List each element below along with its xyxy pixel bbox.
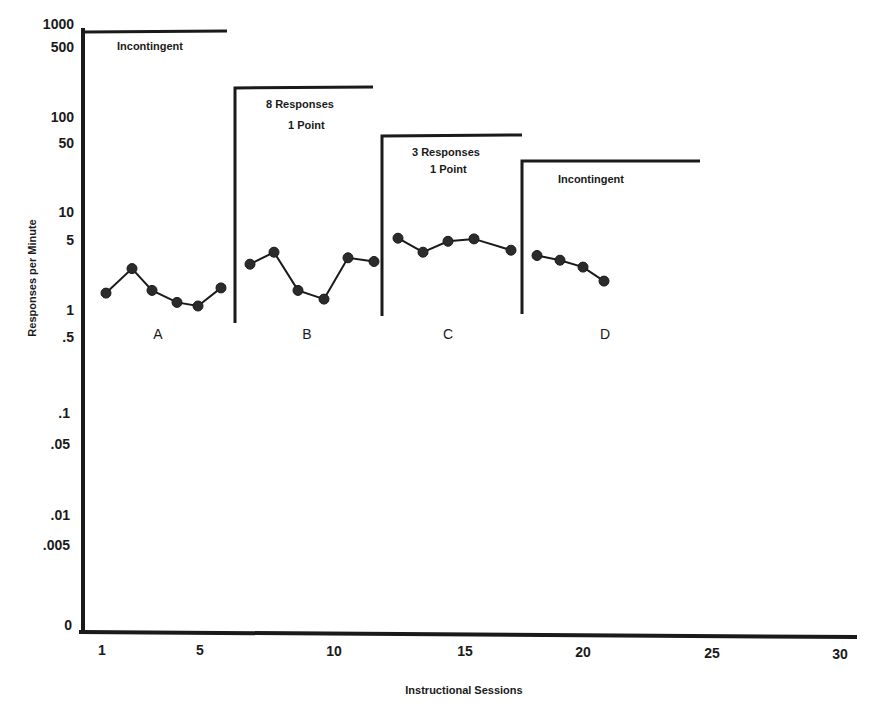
data-point [319, 294, 329, 304]
data-point [506, 245, 516, 255]
y-tick-500: 500 [51, 39, 75, 55]
x-tick-30: 30 [832, 646, 848, 662]
y-tick-50: 50 [58, 135, 74, 151]
condition-label-d: Incontingent [558, 173, 624, 185]
y-tick-0-05: .05 [51, 436, 71, 452]
data-point [101, 288, 111, 298]
data-point [469, 234, 479, 244]
x-tick-15: 15 [457, 643, 473, 659]
x-tick-5: 5 [196, 642, 204, 658]
series-phase-c [393, 233, 516, 257]
data-point [269, 247, 279, 257]
x-tick-25: 25 [704, 645, 720, 661]
x-tick-20: 20 [575, 644, 591, 660]
data-series [101, 233, 609, 311]
phase-label-a: A [153, 326, 163, 342]
chart-canvas: 1000 500 100 50 10 5 1 .5 .1 .05 .01 .00… [0, 0, 872, 706]
y-tick-100: 100 [51, 109, 75, 125]
y-tick-10: 10 [58, 204, 74, 220]
data-point [343, 253, 353, 263]
data-point [245, 259, 255, 269]
condition-label-c-line2: 1 Point [430, 163, 467, 175]
data-point [578, 262, 588, 272]
data-point [216, 283, 226, 293]
series-line [398, 238, 511, 252]
data-point [443, 236, 453, 246]
y-tick-0-01: .01 [51, 507, 71, 523]
data-point [127, 264, 137, 274]
y-tick-0-5: .5 [62, 329, 74, 345]
series-phase-d [532, 251, 609, 287]
series-phase-b [245, 247, 379, 304]
y-axis-tick-labels: 1000 500 100 50 10 5 1 .5 .1 .05 .01 .00… [43, 16, 74, 633]
phase-label-c: C [443, 326, 453, 342]
x-tick-10: 10 [326, 643, 342, 659]
data-point [193, 301, 203, 311]
data-point [172, 297, 182, 307]
bracket-a [85, 31, 227, 32]
condition-label-b-line2: 1 Point [288, 119, 325, 131]
data-point [147, 285, 157, 295]
series-phase-a [101, 264, 226, 311]
data-point [555, 255, 565, 265]
x-axis-title: Instructional Sessions [405, 684, 522, 696]
y-tick-1000: 1000 [43, 16, 74, 32]
data-point [599, 276, 609, 286]
x-axis-line [81, 632, 855, 637]
condition-label-b-line1: 8 Responses [266, 98, 334, 110]
y-tick-0: 0 [64, 617, 72, 633]
y-tick-5: 5 [66, 232, 74, 248]
y-axis-title: Responses per Minute [26, 219, 38, 336]
condition-label-a: Incontingent [117, 40, 183, 52]
axes [81, 30, 855, 637]
series-line [250, 252, 374, 299]
data-point [532, 251, 542, 261]
x-axis-tick-labels: 1 5 10 15 20 25 30 [98, 642, 848, 662]
data-point [418, 247, 428, 257]
data-point [293, 285, 303, 295]
phase-label-b: B [302, 326, 311, 342]
phase-label-d: D [600, 326, 610, 342]
y-tick-1: 1 [66, 302, 74, 318]
y-tick-0-1: .1 [58, 405, 70, 421]
y-tick-0-005: .005 [43, 537, 70, 553]
x-tick-1: 1 [98, 642, 106, 658]
series-line [537, 256, 604, 282]
series-line [106, 269, 221, 306]
data-point [369, 257, 379, 267]
data-point [393, 233, 403, 243]
condition-label-c-line1: 3 Responses [412, 146, 480, 158]
